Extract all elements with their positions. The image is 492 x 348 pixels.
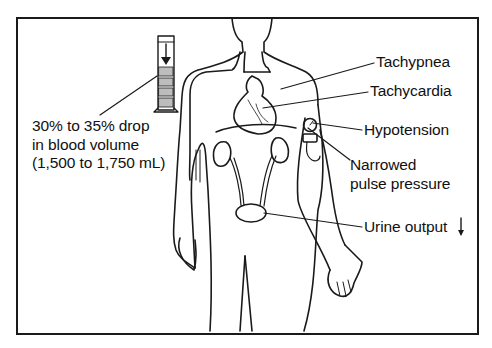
leader-tachycardia bbox=[263, 92, 368, 108]
label-tachycardia: Tachycardia bbox=[370, 81, 452, 100]
blood-pressure-cuff-icon bbox=[303, 119, 320, 161]
bladder-icon bbox=[236, 204, 266, 222]
leader-narrowed-pulse-pressure bbox=[308, 128, 350, 160]
blood-volume-callout: 30% to 35% drop in blood volume (1,500 t… bbox=[32, 117, 165, 173]
label-tachypnea: Tachypnea bbox=[376, 52, 450, 71]
label-urine-output: Urine output bbox=[364, 217, 447, 236]
label-pulse-pressure: pulse pressure bbox=[350, 174, 450, 193]
blood-volume-line-2: in blood volume bbox=[32, 136, 165, 155]
label-narrowed: Narrowed bbox=[350, 155, 416, 174]
blood-volume-line-1: 30% to 35% drop bbox=[32, 117, 165, 136]
leader-urine-output bbox=[264, 213, 362, 227]
down-arrow-icon bbox=[458, 218, 464, 236]
kidney-icon bbox=[214, 138, 289, 167]
label-hypotension: Hypotension bbox=[364, 120, 449, 139]
graduated-cylinder-icon bbox=[154, 36, 178, 112]
blood-volume-line-3: (1,500 to 1,750 mL) bbox=[32, 154, 165, 173]
callout-leader-blood-volume bbox=[100, 76, 157, 115]
